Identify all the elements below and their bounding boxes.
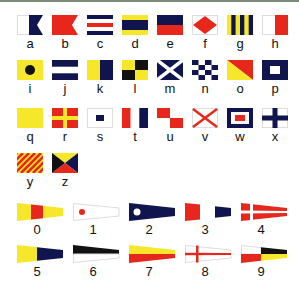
flag-label: m — [156, 82, 184, 96]
flag-label: e — [156, 37, 184, 51]
pennant-7: 7 — [129, 245, 169, 279]
pennant-label: 6 — [73, 265, 113, 279]
flag-label: y — [16, 175, 44, 189]
flag-label: l — [121, 82, 149, 96]
flag-alfa-icon — [17, 15, 43, 35]
pennant-2: 2 — [129, 203, 169, 237]
flag-r: r — [51, 108, 79, 144]
flag-label: g — [226, 37, 254, 51]
flag-label: s — [86, 130, 114, 144]
flag-b: b — [51, 15, 79, 51]
pennant-four-icon — [241, 203, 289, 221]
flag-n: n — [191, 60, 219, 96]
flag-label: v — [191, 130, 219, 144]
flag-k: k — [86, 60, 114, 96]
flag-yankee-icon — [17, 153, 43, 173]
pennant-nine-icon — [241, 245, 289, 263]
flag-label: t — [121, 130, 149, 144]
pennant-6: 6 — [73, 245, 113, 279]
flag-label: w — [226, 130, 254, 144]
flag-label: f — [191, 37, 219, 51]
flag-label: k — [86, 82, 114, 96]
pennant-six-icon — [73, 245, 121, 263]
flag-l: l — [121, 60, 149, 96]
pennant-4: 4 — [241, 203, 281, 237]
flag-sierra-icon — [87, 108, 113, 128]
pennant-label: 3 — [185, 223, 225, 237]
pennant-one-icon — [73, 203, 121, 221]
flag-label: d — [121, 37, 149, 51]
flag-label: z — [51, 175, 79, 189]
pennant-label: 1 — [73, 223, 113, 237]
flag-golf-icon — [227, 15, 253, 35]
flag-label: b — [51, 37, 79, 51]
flag-label: h — [261, 37, 289, 51]
flag-f: f — [191, 15, 219, 51]
flag-c: c — [86, 15, 114, 51]
flag-bravo-icon — [52, 15, 78, 35]
pennant-zero-icon — [17, 203, 65, 221]
flag-h: h — [261, 15, 289, 51]
flag-label: r — [51, 130, 79, 144]
flag-q: q — [16, 108, 44, 144]
top-border-line — [0, 0, 299, 2]
pennant-8: 8 — [185, 245, 225, 279]
flag-echo-icon — [157, 15, 183, 35]
flag-x: x — [261, 108, 289, 144]
pennant-0: 0 — [17, 203, 57, 237]
flag-kilo-icon — [87, 60, 113, 80]
flag-delta-icon — [122, 15, 148, 35]
pennant-three-icon — [185, 203, 233, 221]
pennant-seven-icon — [129, 245, 177, 263]
flag-romeo-icon — [52, 108, 78, 128]
flag-mike-icon — [157, 60, 183, 80]
flag-m: m — [156, 60, 184, 96]
flag-charlie-icon — [87, 15, 113, 35]
flag-label: p — [261, 82, 289, 96]
flag-label: i — [16, 82, 44, 96]
flag-t: t — [121, 108, 149, 144]
flag-d: d — [121, 15, 149, 51]
pennant-label: 2 — [129, 223, 169, 237]
flag-uniform-icon — [157, 108, 183, 128]
pennant-label: 5 — [17, 265, 57, 279]
pennant-label: 0 — [17, 223, 57, 237]
flag-a: a — [16, 15, 44, 51]
flag-whiskey-icon — [227, 108, 253, 128]
flag-hotel-icon — [262, 15, 288, 35]
pennant-label: 4 — [241, 223, 281, 237]
pennant-label: 8 — [185, 265, 225, 279]
flag-label: q — [16, 130, 44, 144]
pennant-label: 9 — [241, 265, 281, 279]
flag-zulu-icon — [52, 153, 78, 173]
flag-s: s — [86, 108, 114, 144]
flag-label: c — [86, 37, 114, 51]
flag-y: y — [16, 153, 44, 189]
flag-xray-icon — [262, 108, 288, 128]
flag-label: a — [16, 37, 44, 51]
flag-label: u — [156, 130, 184, 144]
flag-label: n — [191, 82, 219, 96]
flag-foxtrot-icon — [192, 15, 218, 35]
flag-oscar-icon — [227, 60, 253, 80]
pennant-label: 7 — [129, 265, 169, 279]
flag-label: j — [51, 82, 79, 96]
flag-november-icon — [192, 60, 218, 80]
flag-tango-icon — [122, 108, 148, 128]
flag-v: v — [191, 108, 219, 144]
flag-o: o — [226, 60, 254, 96]
pennant-1: 1 — [73, 203, 113, 237]
pennant-eight-icon — [185, 245, 233, 263]
flag-papa-icon — [262, 60, 288, 80]
flag-juliett-icon — [52, 60, 78, 80]
flag-u: u — [156, 108, 184, 144]
flag-j: j — [51, 60, 79, 96]
flag-label: o — [226, 82, 254, 96]
flag-victor-icon — [192, 108, 218, 128]
flag-z: z — [51, 153, 79, 189]
flag-p: p — [261, 60, 289, 96]
flag-label: x — [261, 130, 289, 144]
flag-quebec-icon — [17, 108, 43, 128]
flag-india-icon — [17, 60, 43, 80]
pennant-5: 5 — [17, 245, 57, 279]
